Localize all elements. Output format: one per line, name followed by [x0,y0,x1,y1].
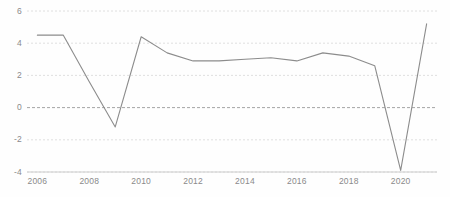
x-tick-label: 2010 [121,176,161,186]
line-chart: -4-20246 2006200820102012201420162018202… [0,0,450,197]
x-tick-label: 2008 [69,176,109,186]
y-tick-label: 0 [0,102,22,112]
x-tick-label: 2014 [225,176,265,186]
x-tick-label: 2016 [277,176,317,186]
y-tick-label: -4 [0,167,22,177]
data-series [37,24,426,171]
chart-canvas [0,0,450,197]
x-tick-label: 2018 [329,176,369,186]
grid-lines [27,11,437,172]
y-tick-label: -2 [0,134,22,144]
x-tick-label: 2012 [173,176,213,186]
series-line-0 [37,24,426,171]
y-tick-label: 2 [0,70,22,80]
y-tick-label: 6 [0,6,22,16]
x-tick-label: 2020 [381,176,421,186]
y-tick-label: 4 [0,38,22,48]
x-tick-label: 2006 [17,176,57,186]
